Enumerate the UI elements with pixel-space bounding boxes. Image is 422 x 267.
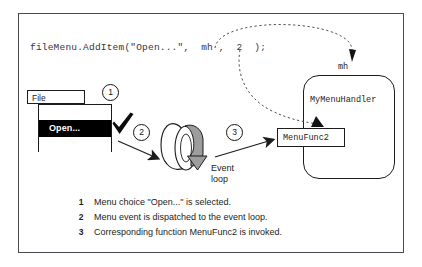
legend-row: 3 Corresponding function MenuFunc2 is in… — [76, 226, 376, 241]
code-statement: fileMenu.AddItem("Open...", mh , 2 ); — [30, 42, 266, 53]
menu-item-blank-bottom[interactable] — [39, 137, 111, 153]
menu-item-blank-top[interactable] — [39, 105, 111, 121]
step-marker-3: 3 — [226, 124, 243, 141]
legend-text: Menu choice "Open..." is selected. — [94, 197, 231, 207]
menu-func2-box: MenuFunc2 — [277, 128, 345, 147]
event-loop-label: Event loop — [211, 163, 234, 185]
legend-number: 3 — [76, 227, 86, 237]
legend-text: Menu event is dispatched to the event lo… — [94, 212, 268, 222]
legend: 1 Menu choice "Open..." is selected. 2 M… — [76, 196, 376, 241]
menu-handler-object — [303, 75, 395, 179]
legend-row: 1 Menu choice "Open..." is selected. — [76, 196, 376, 211]
checkmark-icon — [111, 111, 135, 137]
menu-title-label: File — [32, 93, 46, 103]
menu-handler-class-label: MyMenuHandler — [310, 95, 376, 105]
menu-item-open-selected[interactable]: Open... — [39, 120, 111, 137]
event-loop-label-line2: loop — [211, 174, 234, 185]
step-marker-2: 2 — [133, 124, 150, 141]
menu-item-open-label: Open... — [49, 123, 80, 133]
legend-text: Corresponding function MenuFunc2 is invo… — [94, 227, 282, 237]
menu-dropdown[interactable]: Open... — [38, 104, 112, 152]
legend-row: 2 Menu event is dispatched to the event … — [76, 211, 376, 226]
legend-number: 1 — [76, 197, 86, 207]
menu-title-bar[interactable]: File — [27, 90, 85, 104]
step-marker-1: 1 — [102, 84, 119, 101]
legend-number: 2 — [76, 212, 86, 222]
event-loop-label-line1: Event — [211, 163, 234, 174]
menu-func2-label: MenuFunc2 — [283, 133, 329, 143]
diagram-canvas: fileMenu.AddItem("Open...", mh , 2 ); Fi… — [0, 0, 422, 267]
mh-pointer-label: mh — [338, 62, 348, 72]
